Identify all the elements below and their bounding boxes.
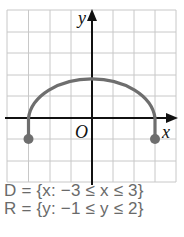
endpoint-right	[150, 134, 160, 144]
endpoint-left	[24, 134, 34, 144]
coordinate-graph: y x O	[0, 0, 184, 185]
domain-statement: D = {x: −3 ≤ x ≤ 3}	[4, 181, 144, 201]
x-axis-label: x	[161, 122, 170, 142]
y-axis-arrow-icon	[87, 9, 97, 21]
y-axis-label: y	[76, 8, 86, 28]
range-statement: R = {y: −1 ≤ y ≤ 2}	[4, 199, 144, 219]
origin-label: O	[75, 122, 88, 142]
